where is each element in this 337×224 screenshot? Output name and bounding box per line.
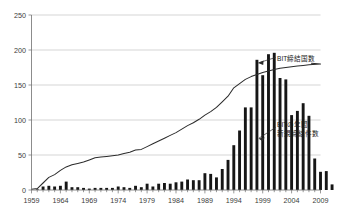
- x-tick-label: 1989: [197, 196, 213, 205]
- bar: [59, 186, 62, 190]
- y-tick-label: 100: [14, 116, 26, 125]
- bar: [175, 182, 178, 190]
- bar: [71, 187, 74, 190]
- bar-annotation-label-line2: 新規締結件数: [277, 129, 319, 138]
- bar: [203, 173, 206, 190]
- bar: [180, 182, 183, 190]
- y-tick-label: 50: [18, 151, 26, 160]
- bit-treaty-chart: 050100150200250 195919641969197419791984…: [0, 0, 337, 224]
- bar: [209, 174, 212, 190]
- bar: [76, 187, 79, 190]
- bar: [221, 169, 224, 190]
- bar: [151, 187, 154, 191]
- x-tick-label: 1969: [81, 196, 97, 205]
- x-tick-label: 2004: [284, 196, 300, 205]
- bar: [163, 183, 166, 190]
- bar: [140, 187, 143, 190]
- x-tick-label: 1964: [52, 196, 68, 205]
- bar: [302, 103, 305, 190]
- bar: [267, 54, 270, 190]
- x-tick-label: 1994: [226, 196, 242, 205]
- bar: [198, 180, 201, 190]
- bar-annotation-label-line1: BITの年間: [277, 120, 308, 129]
- y-tick-label: 200: [14, 46, 26, 55]
- bar: [146, 184, 149, 190]
- bar: [313, 159, 316, 191]
- bar: [157, 184, 160, 190]
- bar: [117, 187, 120, 191]
- bar: [192, 180, 195, 190]
- bar: [319, 172, 322, 190]
- line-annotation-label: BIT締結国数: [277, 54, 315, 63]
- bar: [261, 75, 264, 190]
- x-tick-label: 1959: [24, 196, 40, 205]
- bar: [134, 186, 137, 190]
- bar: [123, 187, 126, 190]
- chart-canvas: 050100150200250 195919641969197419791984…: [0, 0, 337, 224]
- x-tick-label: 2009: [313, 196, 329, 205]
- x-tick-label: 1999: [255, 196, 271, 205]
- x-tick-label: 1984: [168, 196, 184, 205]
- bar: [215, 177, 218, 190]
- bar: [325, 171, 328, 190]
- bar: [227, 160, 230, 190]
- bar: [273, 53, 276, 190]
- bar: [47, 186, 50, 190]
- bar: [331, 184, 334, 190]
- x-tick-label: 1979: [139, 196, 155, 205]
- bar: [232, 145, 235, 190]
- bar: [238, 131, 241, 191]
- bar: [244, 107, 247, 190]
- bar: [186, 180, 189, 191]
- y-tick-label: 250: [14, 11, 26, 20]
- bar: [250, 107, 253, 190]
- bar: [169, 184, 172, 190]
- bar: [53, 187, 56, 191]
- x-tick-label: 1974: [110, 196, 126, 205]
- bar: [65, 182, 68, 190]
- y-tick-label: 0: [22, 186, 26, 195]
- bar: [42, 187, 45, 191]
- bar: [255, 60, 258, 190]
- y-tick-label: 150: [14, 81, 26, 90]
